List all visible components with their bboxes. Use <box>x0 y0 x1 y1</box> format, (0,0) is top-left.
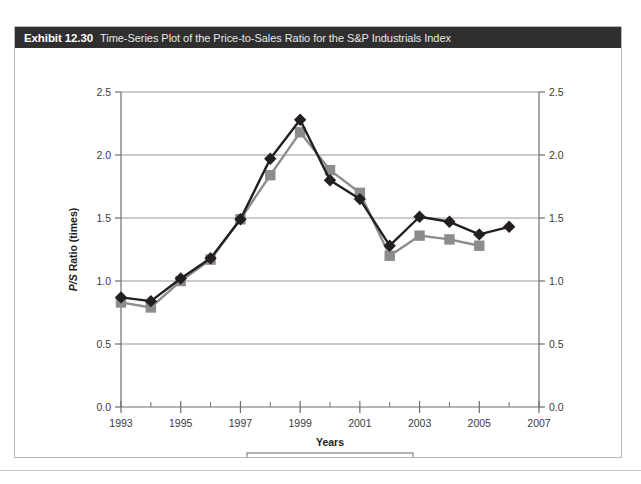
legend-box <box>247 453 413 457</box>
exhibit-number: Exhibit 12.30 <box>24 32 93 44</box>
exhibit-caption: Time-Series Plot of the Price-to-Sales R… <box>100 32 451 44</box>
x-tick-label: 1995 <box>169 417 193 429</box>
data-point-marker <box>474 241 484 251</box>
y-tick-label-right: 1.5 <box>549 212 564 224</box>
y-axis-title-rest: Ratio (times) <box>67 208 79 275</box>
x-minor-ticks <box>151 402 509 407</box>
y-tick-label-right: 1.0 <box>549 275 564 287</box>
data-point-marker <box>503 221 515 233</box>
y-tick-label: 0.5 <box>96 338 111 350</box>
y-left-ticks <box>115 92 121 407</box>
data-point-marker <box>385 251 395 261</box>
page-rule <box>0 470 641 471</box>
x-tick-label: 2005 <box>468 417 492 429</box>
data-point-marker <box>265 170 275 180</box>
y-tick-label: 2.5 <box>96 86 111 98</box>
y-tick-label: 0.0 <box>96 401 111 413</box>
data-point-marker <box>324 174 336 186</box>
x-tick-label: 2001 <box>348 417 372 429</box>
y-left-tick-labels: 0.00.51.01.52.02.5 <box>96 86 111 413</box>
data-point-marker <box>443 216 455 228</box>
y-axis-title-italic: P/S <box>67 274 79 291</box>
x-tick-label: 1999 <box>288 417 312 429</box>
price-to-sales-line-chart: 0.00.51.01.52.02.5 0.00.51.01.52.02.5 19… <box>15 48 621 457</box>
x-tick-label: 2007 <box>527 417 551 429</box>
series-t <box>115 114 516 308</box>
data-point-marker <box>414 230 424 240</box>
y-tick-label-right: 0.5 <box>549 338 564 350</box>
data-point-marker <box>444 234 454 244</box>
chart-legend: tt+1 <box>247 453 413 457</box>
y-tick-label-right: 2.5 <box>549 86 564 98</box>
y-tick-label-right: 0.0 <box>549 401 564 413</box>
x-tick-label: 1997 <box>229 417 253 429</box>
y-tick-label: 1.0 <box>96 275 111 287</box>
exhibit-card: Exhibit 12.30 Time-Series Plot of the Pr… <box>14 26 622 458</box>
y-gridlines <box>121 92 539 344</box>
data-point-marker <box>473 228 485 240</box>
y-right-tick-labels: 0.00.51.01.52.02.5 <box>549 86 564 413</box>
x-axis-title: Years <box>316 436 344 448</box>
x-tick-labels: 19931995199719992001200320052007 <box>109 417 551 429</box>
x-tick-label: 2003 <box>408 417 432 429</box>
y-axis-title: P/S Ratio (times) <box>67 208 79 291</box>
x-tick-label: 1993 <box>109 417 133 429</box>
exhibit-header: Exhibit 12.30 Time-Series Plot of the Pr… <box>15 27 621 48</box>
y-tick-label: 1.5 <box>96 212 111 224</box>
data-series-layer <box>115 114 516 313</box>
y-tick-label: 2.0 <box>96 149 111 161</box>
y-right-ticks <box>539 92 545 407</box>
y-tick-label-right: 2.0 <box>549 149 564 161</box>
chart-container: 0.00.51.01.52.02.5 0.00.51.01.52.02.5 19… <box>15 48 621 458</box>
